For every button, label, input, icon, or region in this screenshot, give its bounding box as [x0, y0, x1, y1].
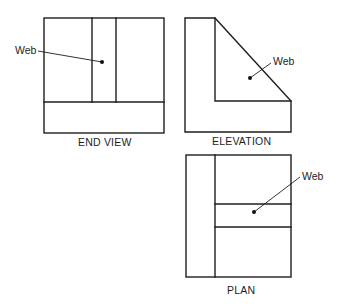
end-view-drawing [38, 18, 164, 133]
end-view-web-callout: Web [15, 45, 36, 56]
plan-web-point [252, 210, 256, 214]
elevation-web-callout: Web [273, 56, 294, 67]
elevation-outline [185, 18, 291, 132]
end-view-title: END VIEW [78, 137, 132, 148]
plan-web-leader-line [254, 177, 300, 212]
plan-drawing [186, 155, 300, 277]
elevation-title: ELEVATION [212, 136, 271, 147]
drawing-canvas [0, 0, 337, 304]
elevation-drawing [185, 18, 291, 132]
plan-web-callout: Web [302, 171, 323, 182]
end-view-web-point [100, 60, 104, 64]
end-view-outline [44, 18, 164, 133]
plan-outline [186, 155, 291, 277]
plan-title: PLAN [227, 285, 255, 296]
elevation-web-point [248, 76, 252, 80]
